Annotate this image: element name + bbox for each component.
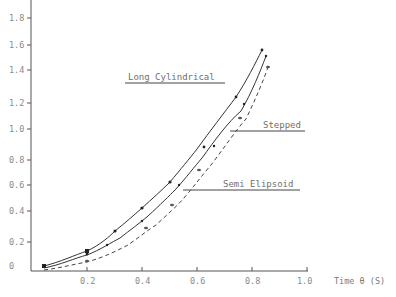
x-axis-title: Time θ (S) (334, 276, 385, 286)
x-tick-label: 0.4 (135, 276, 150, 286)
chart: 0 0.2 0.4 0.6 0.8 1.0 1.2 1.4 1.6 1.8 0.… (0, 0, 396, 297)
x-ticks (87, 267, 307, 271)
series-semi-elipsoid-line (44, 67, 268, 270)
x-tick-label: 1.0 (297, 276, 312, 286)
y-tick-label: 1.2 (9, 98, 24, 108)
y-tick-label: 0 (9, 261, 14, 271)
y-tick-label: 1.4 (9, 65, 24, 75)
y-tick-label: 1.6 (9, 40, 24, 50)
series-long-cylindrical-line (44, 50, 262, 266)
y-tick-label: 0.2 (9, 237, 24, 247)
series-label-semi-elipsoid: Semi Elipsoid (223, 179, 293, 189)
x-tick-label: 0.8 (245, 276, 260, 286)
y-tick-label: 1.0 (9, 124, 24, 134)
series-stepped-line (44, 56, 266, 268)
series-stepped-markers (86, 55, 268, 256)
y-tick-label: 0.4 (9, 206, 24, 216)
series-label-long-cylindrical: Long Cylindrical (128, 72, 215, 82)
series-label-stepped: Stepped (263, 120, 301, 130)
y-tick-label: 0.6 (9, 180, 24, 190)
chart-canvas: 0 0.2 0.4 0.6 0.8 1.0 1.2 1.4 1.6 1.8 0.… (0, 0, 396, 297)
y-ticks (27, 18, 31, 242)
x-tick-label: 0.2 (80, 276, 95, 286)
y-tick-label: 1.8 (9, 13, 24, 23)
y-tick-label: 0.8 (9, 155, 24, 165)
x-tick-label: 0.6 (190, 276, 205, 286)
